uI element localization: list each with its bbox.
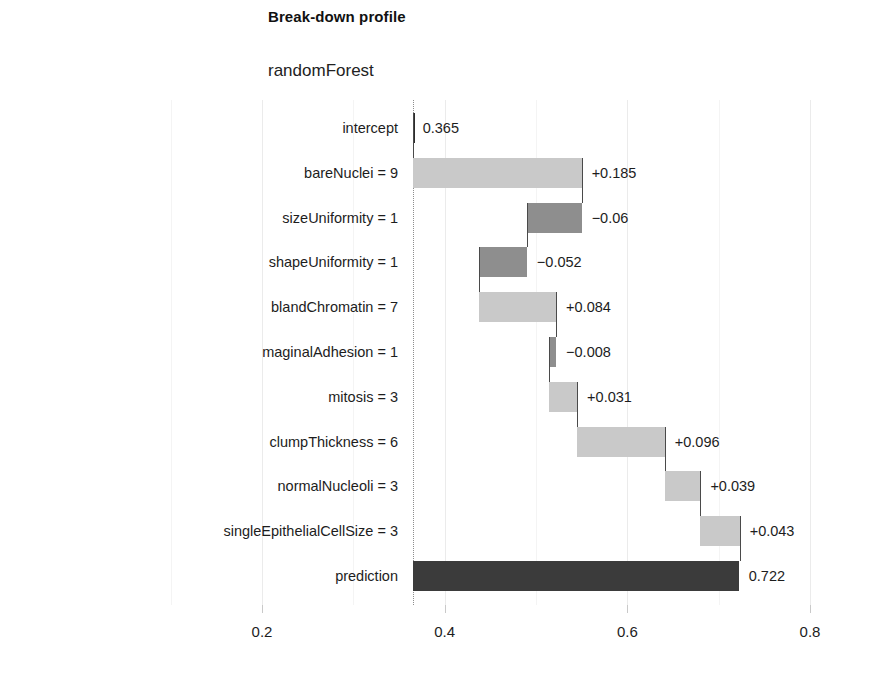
bar-value-label: −0.052 (537, 255, 582, 270)
bar-value-label: −0.008 (566, 345, 611, 360)
bar-value-label: +0.043 (750, 524, 795, 539)
x-axis-tick-label: 0.6 (617, 623, 638, 640)
step-connector (582, 158, 583, 203)
category-label: intercept (342, 121, 398, 136)
category-label: shapeUniformity = 1 (269, 255, 398, 270)
x-axis-tick (627, 605, 628, 613)
step-connector (665, 427, 666, 472)
step-connector (479, 247, 480, 292)
bar-value-label: +0.096 (675, 434, 720, 449)
step-connector (577, 382, 578, 427)
gridline-major (810, 100, 811, 605)
category-label: normalNucleoli = 3 (278, 479, 399, 494)
bar-neg[interactable] (527, 203, 582, 233)
step-connector (413, 113, 414, 158)
step-connector (549, 337, 550, 382)
category-label: mitosis = 3 (328, 390, 398, 405)
bar-pos[interactable] (700, 516, 739, 546)
step-connector (527, 203, 528, 248)
bar-pos[interactable] (479, 292, 556, 322)
x-axis-tick (810, 605, 811, 613)
bar-neg[interactable] (549, 337, 556, 367)
x-axis-tick-label: 0.4 (434, 623, 455, 640)
category-label: maginalAdhesion = 1 (262, 345, 398, 360)
bar-pos[interactable] (413, 158, 582, 188)
category-label: blandChromatin = 7 (271, 300, 398, 315)
bar-value-label: −0.06 (592, 210, 629, 225)
category-label: clumpThickness = 6 (269, 434, 398, 449)
category-label: sizeUniformity = 1 (282, 210, 398, 225)
bar-pos[interactable] (665, 471, 701, 501)
step-connector (740, 516, 741, 561)
bar-neg[interactable] (479, 247, 526, 277)
category-label: prediction (335, 569, 398, 584)
bar-value-label: +0.084 (566, 300, 611, 315)
x-axis-tick (445, 605, 446, 613)
category-label: singleEpithelialCellSize = 3 (223, 524, 398, 539)
category-label: bareNuclei = 9 (304, 166, 398, 181)
category-axis-labels: interceptbareNuclei = 9sizeUniformity = … (0, 0, 398, 678)
x-axis-tick-label: 0.8 (800, 623, 821, 640)
bar-value-label: 0.365 (423, 121, 459, 136)
step-connector (556, 292, 557, 337)
bar-pos[interactable] (577, 427, 665, 457)
step-connector (700, 471, 701, 516)
bar-pos[interactable] (549, 382, 577, 412)
chart-root: Break-down profile randomForest 0.365+0.… (0, 0, 883, 678)
bar-value-label: 0.722 (749, 569, 785, 584)
bar-total[interactable] (413, 561, 739, 591)
bar-value-label: +0.031 (587, 390, 632, 405)
bar-value-label: +0.185 (592, 166, 637, 181)
bar-value-label: +0.039 (710, 479, 755, 494)
